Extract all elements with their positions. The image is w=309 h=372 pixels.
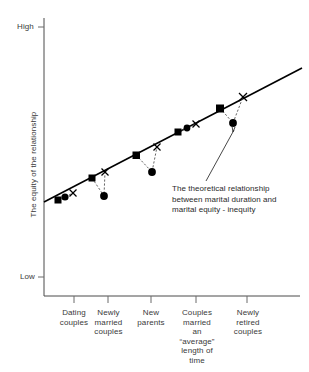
square-marker-1 — [89, 175, 96, 182]
y-axis-low-label: Low — [20, 272, 35, 282]
annotation-leader-line — [206, 130, 234, 181]
x-category-label-3: Couples married an “average” length of t… — [168, 308, 226, 366]
square-marker-2 — [133, 152, 141, 160]
square-marker-4 — [216, 105, 224, 113]
annotation-line-1: The theoretical relationship — [172, 184, 304, 195]
y-axis-high-label: High — [17, 22, 34, 32]
x-category-label-4: Newly retired couples — [221, 308, 275, 337]
circle-marker-4 — [229, 119, 237, 127]
annotation-arrow-head — [232, 126, 235, 132]
square-marker-0 — [55, 197, 62, 204]
circle-marker-2 — [148, 168, 156, 176]
annotation-text-block: The theoretical relationship between mar… — [172, 184, 304, 216]
circle-marker-0 — [61, 193, 68, 200]
y-axis-title: The equity of the relationship — [29, 85, 38, 245]
cross-marker-2 — [154, 144, 161, 151]
circle-marker-1 — [100, 192, 108, 200]
square-marker-3 — [175, 129, 182, 136]
theoretical-trend-line — [44, 68, 302, 202]
cross-marker-0 — [70, 190, 77, 197]
circle-marker-3 — [184, 125, 191, 132]
annotation-line-2: between marital duration and — [172, 195, 304, 206]
annotation-line-3: marital equity - inequity — [172, 205, 304, 216]
chart-container: High Low The equity of the relationship … — [0, 0, 309, 372]
